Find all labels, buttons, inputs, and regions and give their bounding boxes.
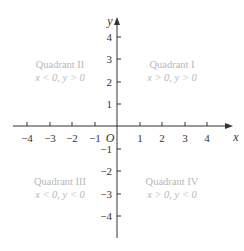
coordinate-plane: −4 −3 −2 −1 1 2 3 4 O 4 3 2 1 −1 −2 −3 −… xyxy=(0,0,244,251)
quadrant-i-label: Quadrant I x > 0, y > 0 xyxy=(146,59,197,83)
x-tick-label: 2 xyxy=(159,132,165,144)
x-tick-label: −4 xyxy=(21,132,33,144)
y-tick-label: 1 xyxy=(107,98,113,110)
x-tick-label: 4 xyxy=(204,132,210,144)
y-tick-label: 4 xyxy=(107,31,113,43)
y-tick-label: 2 xyxy=(107,76,113,88)
x-tick-label: 1 xyxy=(137,132,143,144)
quadrant-title: Quadrant III xyxy=(34,176,87,187)
quadrant-ii-label: Quadrant II x < 0, y > 0 xyxy=(34,59,85,83)
quadrant-iv-label: Quadrant IV x > 0, y < 0 xyxy=(146,176,199,200)
y-tick-label: −1 xyxy=(100,143,112,155)
y-axis-label: y xyxy=(106,14,113,28)
x-axis-label: x xyxy=(232,130,239,144)
x-tick-label: 3 xyxy=(182,132,188,144)
y-tick-label: −2 xyxy=(100,165,112,177)
x-tick-label: −3 xyxy=(44,132,56,144)
y-axis-arrow-icon xyxy=(114,17,120,25)
quadrant-condition: x > 0, y < 0 xyxy=(146,189,197,200)
x-tick-label: −2 xyxy=(66,132,78,144)
quadrant-title: Quadrant II xyxy=(36,59,85,70)
quadrant-iii-label: Quadrant III x < 0, y < 0 xyxy=(34,176,87,200)
quadrant-title: Quadrant I xyxy=(149,59,195,70)
quadrant-condition: x < 0, y > 0 xyxy=(34,72,85,83)
y-tick-label: 3 xyxy=(107,53,113,65)
x-axis-arrow-icon xyxy=(225,123,233,129)
quadrant-condition: x < 0, y < 0 xyxy=(34,189,85,200)
quadrant-condition: x > 0, y > 0 xyxy=(146,72,197,83)
y-tick-label: −3 xyxy=(100,188,112,200)
y-tick-label: −4 xyxy=(100,210,112,222)
quadrant-title: Quadrant IV xyxy=(146,176,199,187)
x-tick-label: −1 xyxy=(89,132,101,144)
